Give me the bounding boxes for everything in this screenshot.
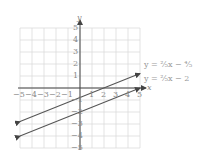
x-tick-label: 5 bbox=[137, 90, 142, 99]
x-tick-label: 3 bbox=[113, 90, 118, 99]
equation-label-1: y = ²⁄₅x − ⁴⁄₅ bbox=[144, 60, 192, 69]
x-axis-label: x bbox=[147, 83, 152, 92]
x-tick-label: −5 bbox=[13, 90, 25, 99]
y-axis-label: y bbox=[77, 13, 82, 22]
x-tick-label: 4 bbox=[125, 90, 130, 99]
x-tick-label: 1 bbox=[89, 90, 94, 99]
y-tick-label: 2 bbox=[73, 59, 78, 68]
y-tick-label: −4 bbox=[71, 131, 83, 140]
y-tick-label: 5 bbox=[73, 23, 78, 32]
x-tick-label: 2 bbox=[101, 90, 106, 99]
y-tick-label: 1 bbox=[73, 71, 78, 80]
x-tick-label: −3 bbox=[37, 90, 49, 99]
y-tick-label: −1 bbox=[71, 95, 83, 104]
y-tick-label: 3 bbox=[73, 47, 78, 56]
y-tick-label: 4 bbox=[73, 35, 78, 44]
y-tick-label: −2 bbox=[71, 107, 83, 116]
equation-label-2: y = ²⁄₅x − 2 bbox=[144, 74, 189, 83]
x-tick-label: −4 bbox=[25, 90, 37, 99]
y-tick-label: −5 bbox=[71, 143, 83, 152]
y-tick-label: −3 bbox=[71, 119, 83, 128]
x-tick-label: −2 bbox=[49, 90, 61, 99]
